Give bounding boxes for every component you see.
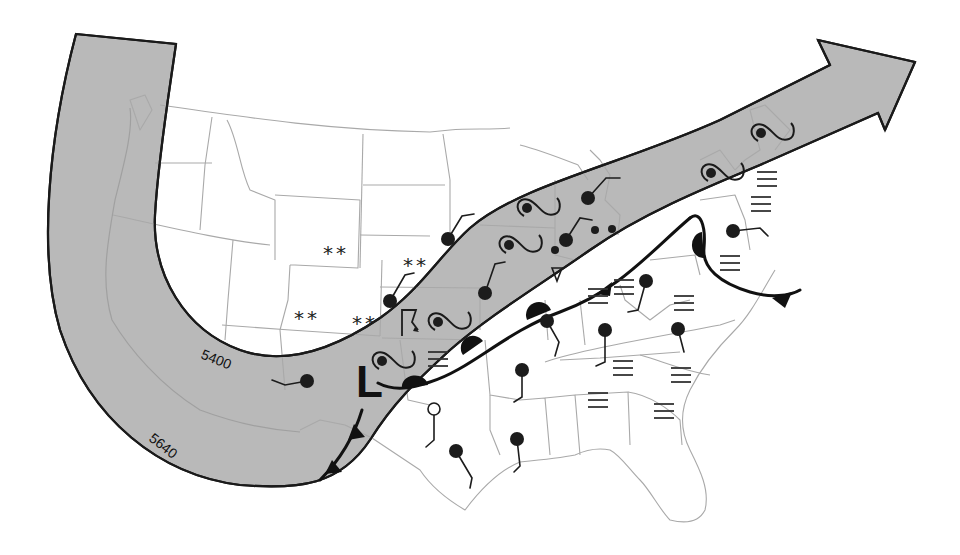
- overcast-station-icon: [510, 432, 524, 446]
- station-model: [591, 226, 599, 234]
- station-model: [608, 225, 616, 233]
- station-model: [671, 322, 685, 352]
- fog-icon: [654, 404, 674, 418]
- station-model: [540, 314, 559, 356]
- overcast-station-icon: [591, 226, 599, 234]
- snow-icon: **: [403, 253, 429, 277]
- overcast-station-icon: [540, 314, 554, 328]
- station-model: [551, 246, 559, 254]
- station-model: [514, 363, 529, 402]
- station-model: [596, 323, 612, 366]
- overcast-station-icon: [383, 294, 397, 308]
- overcast-station-icon: [671, 322, 685, 336]
- overcast-station-icon: [441, 232, 455, 246]
- station-model: [426, 403, 440, 447]
- overcast-station-icon: [449, 444, 463, 458]
- station-model: [449, 444, 472, 488]
- overcast-station-icon: [300, 374, 314, 388]
- jet-stream-band: [48, 34, 915, 487]
- weather-map: 54005640 L ********: [0, 0, 960, 555]
- clear-station-icon: [428, 403, 440, 415]
- snow-icon: **: [352, 311, 378, 335]
- fog-icon: [674, 296, 694, 310]
- wind-barb: [426, 415, 434, 447]
- fog-icon: [720, 256, 740, 270]
- warm-front: [690, 216, 800, 296]
- overcast-station-icon: [515, 363, 529, 377]
- warm-front-semicircle: [692, 232, 704, 258]
- overcast-station-icon: [639, 274, 653, 288]
- fog-icon: [751, 197, 771, 211]
- overcast-station-icon: [581, 191, 595, 205]
- fog-icon: [588, 393, 608, 407]
- northern-border: [160, 105, 510, 132]
- overcast-station-icon: [598, 323, 612, 337]
- fog-icon: [757, 172, 777, 186]
- overcast-station-icon: [478, 286, 492, 300]
- fog-icon: [613, 361, 633, 375]
- snow-icon: **: [294, 306, 320, 330]
- overcast-station-icon: [559, 233, 573, 247]
- snow-icon: **: [323, 241, 349, 265]
- overcast-station-icon: [551, 246, 559, 254]
- overcast-station-icon: [726, 224, 740, 238]
- overcast-station-icon: [608, 225, 616, 233]
